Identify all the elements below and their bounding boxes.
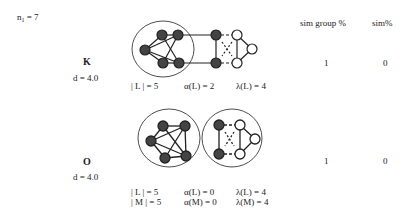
graph-o: [138, 109, 262, 167]
graph-diagrams: [0, 0, 409, 214]
graph-k: [132, 21, 257, 77]
